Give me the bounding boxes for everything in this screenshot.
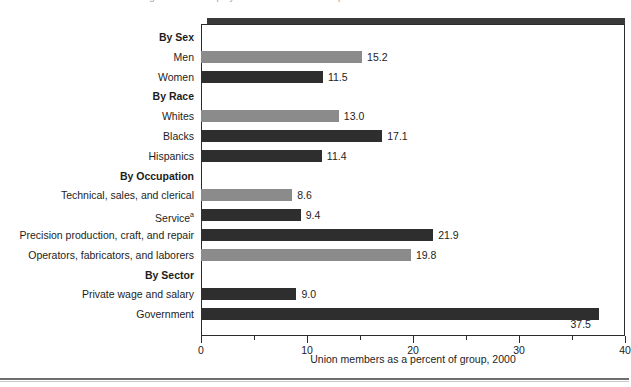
footnote-marker: a: [190, 211, 194, 218]
bar-value-label: 37.5: [571, 315, 591, 333]
bar-category-label: Precision production, craft, and repair: [0, 226, 194, 244]
bar: [201, 229, 433, 241]
bar-category-label: Private wage and salary: [0, 285, 194, 303]
bar: [201, 150, 322, 162]
bar-value-label: 15.2: [367, 48, 387, 66]
bar: [201, 249, 411, 261]
bar-value-label: 13.0: [344, 107, 364, 125]
chart-bar-row: Technical, sales, and clerical8.6: [0, 186, 629, 204]
chart-bar-row: Blacks17.1: [0, 127, 629, 145]
bar: [201, 189, 292, 201]
x-axis-title: Union members as a percent of group, 200…: [201, 353, 625, 365]
x-axis-major-tick: [519, 336, 520, 343]
bar-value-label: 21.9: [438, 226, 458, 244]
bar-category-label: Whites: [0, 107, 194, 125]
x-axis-major-tick: [413, 336, 414, 343]
group-heading-label: By Sex: [0, 28, 194, 46]
bar-value-label: 9.0: [301, 285, 316, 303]
chart-bar-row: Women11.5: [0, 68, 629, 86]
x-axis-minor-tick: [254, 336, 255, 340]
bar: [201, 71, 323, 83]
page-footer-rule-secondary: [0, 381, 629, 382]
chart-bar-row: Precision production, craft, and repair2…: [0, 226, 629, 244]
chart-bar-row: Hispanics11.4: [0, 147, 629, 165]
x-axis-major-tick: [625, 336, 626, 343]
bar-category-label: Hispanics: [0, 147, 194, 165]
chart-group-row: By Sex: [0, 28, 629, 46]
bar-category-label: Women: [0, 68, 194, 86]
x-axis-major-tick: [307, 336, 308, 343]
bar-value-label: 8.6: [297, 186, 312, 204]
bar-category-label: Servicea: [0, 206, 194, 227]
chart-group-row: By Race: [0, 87, 629, 105]
bar-value-label: 17.1: [387, 127, 407, 145]
chart-bar-row: Operators, fabricators, and laborers19.8: [0, 246, 629, 264]
bar-category-label: Operators, fabricators, and laborers: [0, 246, 194, 264]
page-footer-rule: [0, 378, 629, 380]
x-axis: 010203040: [201, 336, 625, 337]
x-axis-minor-tick: [466, 336, 467, 340]
bar-value-label: 11.4: [327, 147, 347, 165]
chart-bar-row: Private wage and salary9.0: [0, 285, 629, 303]
chart-bar-row: Men15.2: [0, 48, 629, 66]
bar: [201, 209, 301, 221]
group-heading-label: By Occupation: [0, 167, 194, 185]
chart-group-row: By Sector: [0, 266, 629, 284]
bar: [201, 110, 339, 122]
bar-category-label: Government: [0, 305, 194, 323]
bar: [201, 51, 362, 63]
chart-bar-row: Servicea9.4: [0, 206, 629, 224]
bar: [201, 308, 599, 320]
bar-category-label: Technical, sales, and clerical: [0, 186, 194, 204]
bar: [201, 288, 296, 300]
bar-value-label: 19.8: [416, 246, 436, 264]
bar-category-label: Blacks: [0, 127, 194, 145]
bar-value-label: 11.5: [328, 68, 348, 86]
chart-bar-row: Whites13.0: [0, 107, 629, 125]
x-axis-minor-tick: [572, 336, 573, 340]
chart-group-row: By Occupation: [0, 167, 629, 185]
x-axis-major-tick: [201, 336, 202, 343]
group-heading-label: By Sector: [0, 266, 194, 284]
bar: [201, 130, 382, 142]
bar-category-label: Men: [0, 48, 194, 66]
group-heading-label: By Race: [0, 87, 194, 105]
x-axis-minor-tick: [360, 336, 361, 340]
chart-bar-row: Government37.5: [0, 305, 629, 323]
bar-value-label: 9.4: [306, 206, 321, 224]
